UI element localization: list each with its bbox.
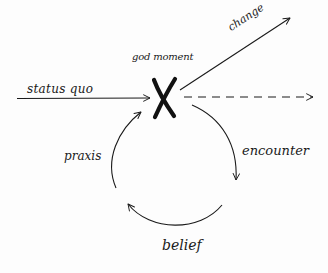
status-quo-arrow: [17, 98, 150, 99]
encounter-label: encounter: [242, 144, 309, 157]
diagram-drawing: [0, 0, 328, 273]
cycle-loop: [112, 105, 237, 225]
god-moment-x-icon: [154, 79, 175, 117]
belief-label: belief: [162, 238, 202, 252]
god-moment-label: god moment: [132, 52, 193, 62]
arc-to-belief: [128, 204, 222, 225]
praxis-label: praxis: [64, 150, 101, 162]
arc-to-encounter: [192, 105, 236, 180]
arc-to-god-moment: [112, 112, 141, 188]
diagram-canvas: status quo god moment change praxis enco…: [0, 0, 328, 273]
status-quo-label: status quo: [27, 83, 93, 95]
